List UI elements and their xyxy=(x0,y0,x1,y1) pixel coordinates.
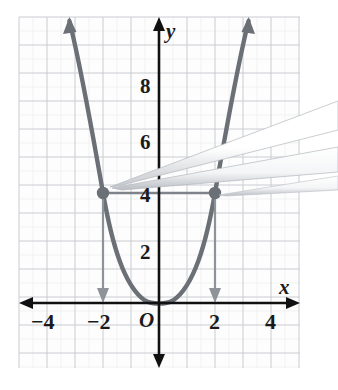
x-tick-label-minus2: −2 xyxy=(87,311,111,333)
x-tick-label-2: 2 xyxy=(209,311,220,333)
y-tick-label-4: 4 xyxy=(140,185,151,206)
x-tick-label-minus4: −4 xyxy=(31,311,55,333)
y-tick-label-6: 6 xyxy=(140,132,151,153)
y-tick-label-8: 8 xyxy=(140,76,151,97)
x-axis-label: x xyxy=(279,277,290,298)
point-marker-left xyxy=(97,187,109,199)
x-tick-label-4: 4 xyxy=(265,311,276,333)
point-marker-right xyxy=(209,187,221,199)
y-axis-label: y xyxy=(166,21,175,42)
graph-figure: 8 6 4 2 −4 −2 2 4 O x y xyxy=(0,0,338,390)
y-tick-label-2: 2 xyxy=(140,242,151,263)
origin-label: O xyxy=(139,310,154,331)
